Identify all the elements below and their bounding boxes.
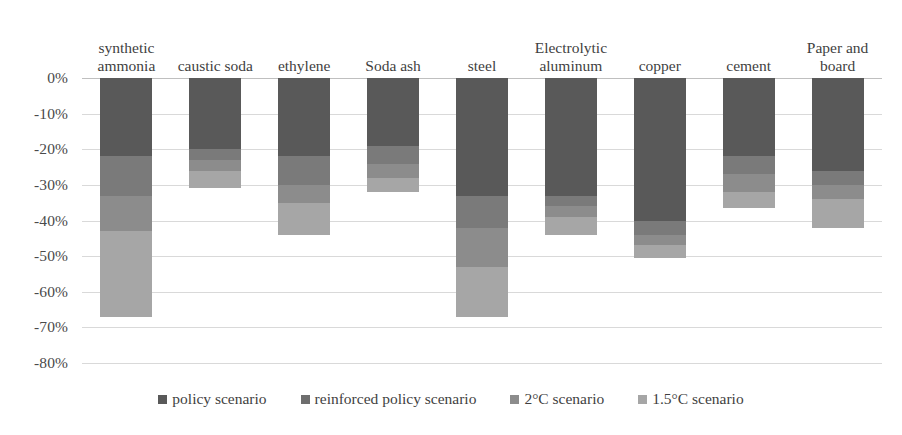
category-label: copper (615, 57, 704, 74)
category-label: Soda ash (349, 57, 438, 74)
legend-label: reinforced policy scenario (315, 390, 477, 408)
legend-swatch-icon (158, 395, 167, 404)
bar-group[interactable] (723, 78, 775, 363)
category-label: caustic soda (171, 57, 260, 74)
legend-item[interactable]: policy scenario (158, 390, 266, 408)
category-axis: synthetic ammoniacaustic sodaethyleneSod… (82, 12, 882, 74)
legend-item[interactable]: 1.5°C scenario (638, 390, 743, 408)
legend-swatch-icon (638, 395, 647, 404)
bar-group[interactable] (278, 78, 330, 363)
legend-swatch-icon (301, 395, 310, 404)
y-axis-tick-label: -30% (34, 176, 68, 194)
legend-item[interactable]: 2°C scenario (510, 390, 604, 408)
bar-segment[interactable] (634, 78, 686, 221)
bar-group[interactable] (367, 78, 419, 363)
legend-label: policy scenario (172, 390, 266, 408)
category-label: ethylene (260, 57, 349, 74)
category-label: Paper and board (793, 39, 882, 74)
y-axis-tick-label: -70% (34, 318, 68, 336)
y-axis-tick-label: -80% (34, 354, 68, 372)
emission-reduction-bar-chart: 0%-10%-20%-30%-40%-50%-60%-70%-80% synth… (0, 0, 902, 435)
bar-segment[interactable] (723, 78, 775, 156)
legend-swatch-icon (510, 395, 519, 404)
category-label: steel (438, 57, 527, 74)
bar-segment[interactable] (456, 78, 508, 196)
y-axis-tick-label: -10% (34, 105, 68, 123)
category-label: synthetic ammonia (82, 39, 171, 74)
chart-legend: policy scenarioreinforced policy scenari… (0, 390, 902, 408)
bar-segment[interactable] (367, 78, 419, 146)
bar-group[interactable] (100, 78, 152, 363)
bar-segment[interactable] (545, 78, 597, 196)
bar-segment[interactable] (100, 78, 152, 156)
bar-segment[interactable] (189, 78, 241, 149)
bar-group[interactable] (634, 78, 686, 363)
bar-segment[interactable] (278, 78, 330, 156)
y-axis-tick-label: -20% (34, 140, 68, 158)
bar-group[interactable] (545, 78, 597, 363)
category-label: cement (704, 57, 793, 74)
bar-segment[interactable] (812, 78, 864, 171)
bar-group[interactable] (456, 78, 508, 363)
y-axis-tick-label: 0% (47, 69, 68, 87)
y-axis-tick-label: -40% (34, 212, 68, 230)
plot-area (82, 78, 882, 363)
y-axis-tick-label: -50% (34, 247, 68, 265)
y-axis: 0%-10%-20%-30%-40%-50%-60%-70%-80% (0, 78, 74, 363)
legend-label: 2°C scenario (524, 390, 604, 408)
legend-item[interactable]: reinforced policy scenario (301, 390, 477, 408)
bar-group[interactable] (189, 78, 241, 363)
y-axis-tick-label: -60% (34, 283, 68, 301)
legend-label: 1.5°C scenario (652, 390, 743, 408)
gridline (82, 363, 882, 364)
category-label: Electrolytic aluminum (526, 39, 615, 74)
bar-group[interactable] (812, 78, 864, 363)
